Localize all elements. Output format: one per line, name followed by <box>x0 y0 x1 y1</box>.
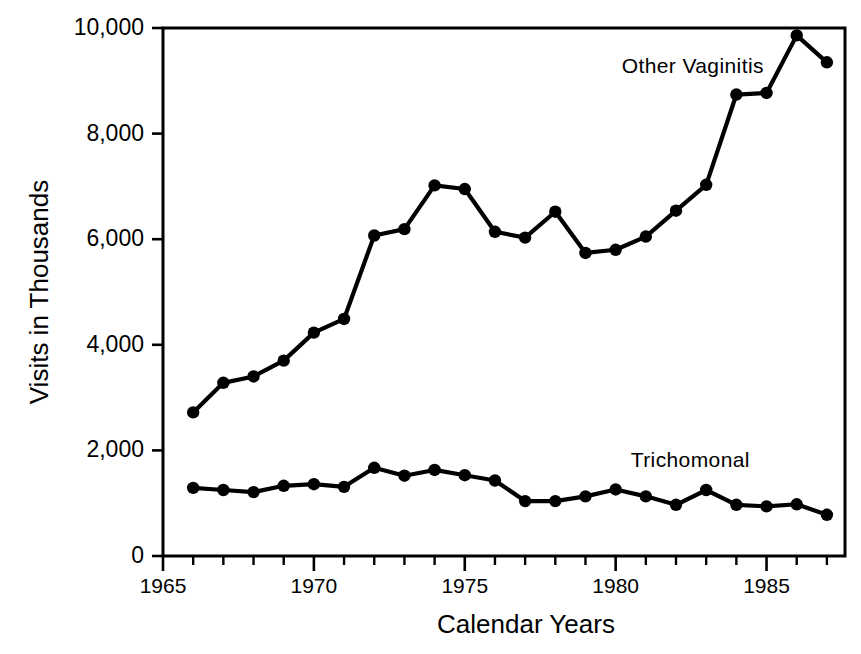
data-point <box>489 474 501 486</box>
data-point <box>791 498 803 510</box>
data-point <box>398 470 410 482</box>
data-point <box>278 480 290 492</box>
data-point <box>670 499 682 511</box>
x-axis-title: Calendar Years <box>437 609 615 639</box>
data-point <box>247 370 259 382</box>
data-point <box>278 354 290 366</box>
data-point <box>609 483 621 495</box>
data-point <box>519 231 531 243</box>
data-point <box>217 377 229 389</box>
series-label-1: Other Vaginitis <box>622 54 764 77</box>
data-point <box>549 495 561 507</box>
data-point <box>368 229 380 241</box>
data-point <box>187 406 199 418</box>
data-point <box>760 500 772 512</box>
data-point <box>247 486 259 498</box>
y-tick-label: 0 <box>131 542 144 568</box>
data-point <box>579 247 591 259</box>
chart-figure: 02,0004,0006,0008,00010,000 196519701975… <box>0 0 861 654</box>
data-point <box>579 490 591 502</box>
data-point <box>640 230 652 242</box>
y-tick-label: 8,000 <box>86 120 144 146</box>
chart-canvas: 02,0004,0006,0008,00010,000 196519701975… <box>0 0 861 654</box>
data-point <box>670 204 682 216</box>
data-point <box>700 179 712 191</box>
data-point <box>609 244 621 256</box>
series-label-2: Trichomonal <box>631 448 750 471</box>
data-point <box>428 464 440 476</box>
y-tick-label: 2,000 <box>86 436 144 462</box>
data-point <box>187 482 199 494</box>
data-point <box>730 88 742 100</box>
data-point <box>549 206 561 218</box>
data-point <box>760 87 772 99</box>
y-tick-label: 10,000 <box>74 14 144 40</box>
y-tick-label: 6,000 <box>86 225 144 251</box>
data-point <box>700 484 712 496</box>
data-point <box>730 499 742 511</box>
y-axis-title: Visits in Thousands <box>24 180 54 405</box>
data-point <box>459 183 471 195</box>
data-point <box>338 313 350 325</box>
x-tick-label: 1970 <box>291 574 338 597</box>
y-tick-label: 4,000 <box>86 331 144 357</box>
data-point <box>519 495 531 507</box>
data-point <box>459 469 471 481</box>
data-point <box>398 223 410 235</box>
data-point <box>217 484 229 496</box>
data-point <box>791 29 803 41</box>
data-point <box>821 509 833 521</box>
data-point <box>368 462 380 474</box>
data-point <box>308 478 320 490</box>
x-tick-label: 1965 <box>140 574 187 597</box>
data-point <box>428 179 440 191</box>
data-point <box>821 56 833 68</box>
data-point <box>338 481 350 493</box>
data-point <box>308 326 320 338</box>
x-tick-label: 1980 <box>592 574 639 597</box>
x-tick-label: 1975 <box>441 574 488 597</box>
x-tick-label: 1985 <box>743 574 790 597</box>
data-point <box>640 490 652 502</box>
data-point <box>489 226 501 238</box>
